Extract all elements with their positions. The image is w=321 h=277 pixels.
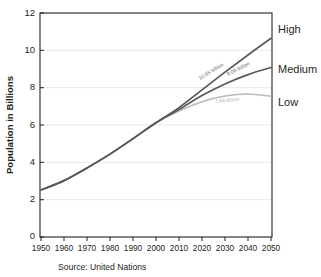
x-tick-2050: 2050 [262,243,281,253]
series-label-low: Low [278,96,298,108]
series-label-medium: Medium [278,63,317,75]
x-tick-2030: 2030 [216,243,235,253]
x-tick-1990: 1990 [124,243,143,253]
population-projection-chart: 12 10 8 6 4 2 0 Population in Billions [0,0,321,277]
y-tick-0: 0 [30,230,35,241]
x-tick-2000: 2000 [147,243,166,253]
chart-canvas: 12 10 8 6 4 2 0 Population in Billions [0,0,321,277]
y-tick-8: 8 [30,81,35,92]
x-tick-2020: 2020 [193,243,212,253]
series-label-high: High [278,23,301,35]
x-axis-tick-labels: 1950 1960 1970 1980 1990 2000 2010 2020 … [32,243,281,253]
x-tick-2040: 2040 [239,243,258,253]
y-axis-title: Population in Billions [4,76,15,174]
source-note: Source: United Nations [58,262,146,272]
y-tick-4: 4 [30,156,35,167]
y-tick-2: 2 [30,193,35,204]
y-tick-6: 6 [30,119,35,130]
x-tick-1970: 1970 [78,243,97,253]
x-tick-2010: 2010 [170,243,189,253]
y-tick-10: 10 [24,44,35,55]
x-tick-1960: 1960 [55,243,74,253]
y-tick-12: 12 [24,7,35,18]
x-tick-1950: 1950 [32,243,51,253]
x-tick-1980: 1980 [101,243,120,253]
